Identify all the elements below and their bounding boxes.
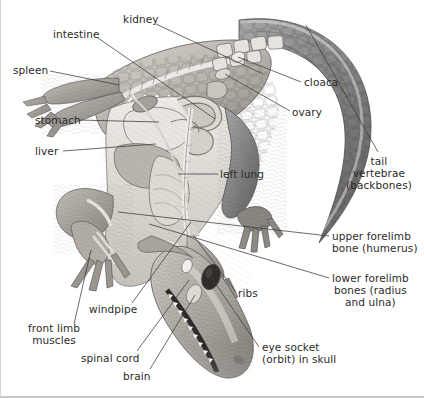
label-spinal-cord: spinal cord (81, 352, 140, 364)
label-ribs: ribs (238, 287, 258, 299)
label-tail-vertebrae: tail vertebrae (backbones) (346, 155, 412, 192)
label-left-lung: left lung (220, 168, 264, 180)
label-spleen: spleen (13, 64, 48, 76)
label-stomach: stomach (35, 114, 81, 126)
label-windpipe: windpipe (89, 303, 137, 315)
label-kidney: kidney (123, 13, 159, 25)
anatomy-figure: kidney intestine spleen stomach liver cl… (0, 0, 424, 398)
label-ovary: ovary (292, 106, 322, 118)
label-brain: brain (123, 370, 151, 382)
label-eye-socket: eye socket (orbit) in skull (262, 341, 336, 365)
label-front-limb: front limb muscles (28, 322, 80, 346)
label-liver: liver (35, 145, 58, 157)
label-cloaca: cloaca (304, 76, 338, 88)
label-lower-forelimb: lower forelimb bones (radius and ulna) (332, 272, 409, 309)
label-intestine: intestine (53, 28, 100, 40)
label-upper-forelimb: upper forelimb bone (humerus) (332, 230, 418, 254)
